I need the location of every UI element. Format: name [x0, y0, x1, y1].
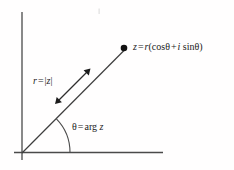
scan-artifact-mark	[99, 9, 100, 15]
label-theta-function: arg	[84, 121, 97, 132]
label-z-cos: cos	[152, 41, 165, 52]
label-z-sin: sin	[183, 41, 195, 52]
point-marker-z	[121, 45, 128, 52]
point-label-z: z=r(cosθ+i sinθ)	[133, 42, 203, 52]
radius-label: r=|z|	[33, 76, 52, 86]
label-z-imaginary-unit: i	[178, 41, 181, 52]
radius-measure-arrow	[55, 69, 91, 105]
label-z-equals: =	[137, 41, 145, 52]
label-z-plus: +	[170, 41, 178, 52]
label-theta-argument: z	[100, 121, 104, 132]
angle-label: θ=arg z	[72, 122, 103, 132]
label-r-equals: =	[37, 75, 45, 86]
radius-ray	[22, 50, 125, 154]
label-r-bar-close: |	[50, 75, 52, 86]
complex-number-polar-form-diagram: z=r(cosθ+i sinθ) r=|z| θ=arg z	[0, 0, 234, 170]
label-z-close-paren: )	[199, 41, 202, 52]
angle-arc	[56, 119, 70, 153]
